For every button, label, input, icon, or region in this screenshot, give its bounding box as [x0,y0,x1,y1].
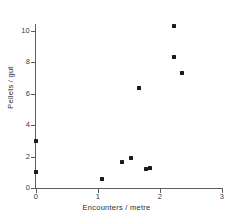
y-axis-line [35,24,36,189]
data-point [172,24,176,28]
y-tick-mark [31,31,35,32]
x-tick-label: 0 [29,192,43,201]
x-tick-label: 2 [153,192,167,201]
x-axis-title: Encounters / metre [0,203,233,212]
y-tick-label: 2 [14,153,30,161]
y-tick-mark [31,188,35,189]
data-point [172,55,176,59]
x-tick-label: 3 [215,192,229,201]
y-tick-label: 6 [14,90,30,98]
data-point [180,71,184,75]
y-tick-label: 0 [14,184,30,192]
data-point [34,170,38,174]
data-point [34,139,38,143]
y-tick-label: 8 [14,58,30,66]
data-point [100,177,104,181]
y-tick-label: 4 [14,121,30,129]
data-point [137,86,141,90]
y-tick-mark [31,125,35,126]
x-axis-line [35,188,223,189]
y-tick-mark [31,62,35,63]
data-point [148,166,152,170]
x-tick-label: 1 [91,192,105,201]
scatter-plot-figure: Encounters / metre Pellets / gut 0246810… [0,0,233,218]
y-tick-label: 10 [14,27,30,35]
y-tick-mark [31,157,35,158]
data-point [129,156,133,160]
y-tick-mark [31,94,35,95]
plot-area [36,26,222,188]
data-point [120,160,124,164]
